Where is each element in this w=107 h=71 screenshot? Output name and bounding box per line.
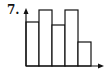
bar-1 [26, 22, 39, 66]
x-axis-arrow-icon [98, 64, 104, 69]
bar-2 [39, 10, 52, 66]
bar-3 [52, 25, 65, 66]
histogram-chart [0, 0, 107, 71]
bar-4 [65, 10, 78, 66]
bars-group [26, 10, 91, 66]
y-axis-arrow-icon [24, 8, 29, 14]
bar-5 [78, 42, 91, 66]
